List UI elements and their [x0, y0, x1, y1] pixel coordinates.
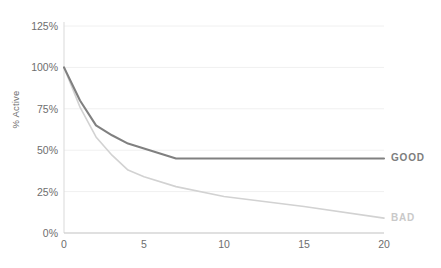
- series-label-good: GOOD: [391, 153, 425, 163]
- line-chart: % Active 0%25%50%75%100%125% 05101520 GO…: [0, 0, 441, 268]
- plot-area: [0, 0, 441, 268]
- series-label-bad: BAD: [391, 213, 415, 223]
- series-line-bad: [64, 67, 384, 218]
- gridlines: [64, 26, 384, 233]
- series-line-good: [64, 67, 384, 158]
